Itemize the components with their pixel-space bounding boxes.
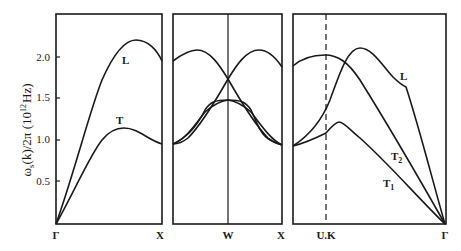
- xlabel-w: W: [223, 229, 234, 241]
- ytick-1.5: 1.5: [36, 91, 50, 103]
- ytick-0.5: 0.5: [36, 175, 50, 187]
- label-p3-T2: T2: [391, 150, 402, 165]
- label-p1-L: L: [122, 54, 129, 66]
- xlabel-gamma-1: Γ: [53, 229, 60, 241]
- y-tick-labels: 0.5 1.0 1.5 2.0: [36, 51, 50, 187]
- label-p3-L: L: [400, 70, 407, 82]
- y-axis-label: ωs(k)/2π (1012Hz): [19, 84, 36, 177]
- ytick-1.0: 1.0: [36, 133, 50, 145]
- phonon-dispersion-chart: ωs(k)/2π (1012Hz) 0.5 1.0 1.5 2.0: [0, 0, 461, 251]
- ytick-2.0: 2.0: [36, 51, 50, 63]
- xlabel-gamma-2: Γ: [442, 229, 449, 241]
- curve-p1-L: [56, 40, 162, 224]
- curve-p3-L: [293, 48, 445, 224]
- panel-x-uk-gamma-frame: [293, 14, 446, 224]
- label-p1-T: T: [116, 114, 124, 126]
- xlabel-uk: U.K: [316, 229, 336, 241]
- label-p3-T1: T1: [383, 177, 394, 192]
- xlabel-x-1: X: [156, 229, 164, 241]
- xlabel-x-2: X: [277, 229, 285, 241]
- curve-p3-T1: [293, 122, 445, 224]
